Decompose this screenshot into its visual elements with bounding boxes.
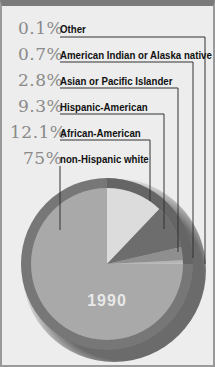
legend-label: American Indian or Alaska native	[60, 49, 212, 61]
legend-pct: 0.1%	[18, 18, 63, 38]
legend-label: Hispanic-American	[60, 101, 148, 113]
legend-pct: 9.3%	[18, 96, 63, 116]
legend-label: Other	[60, 23, 86, 35]
legend-label: African-American	[60, 127, 141, 139]
legend-pct: 75%	[23, 148, 62, 168]
legend-pct: 0.7%	[18, 44, 63, 64]
legend-label: non-Hispanic white	[60, 153, 149, 165]
legend-label: Asian or Pacific Islander	[60, 75, 172, 87]
legend-pct: 12.1%	[10, 122, 67, 142]
legend-pct: 2.8%	[18, 70, 63, 90]
year-label: 1990	[87, 292, 127, 309]
